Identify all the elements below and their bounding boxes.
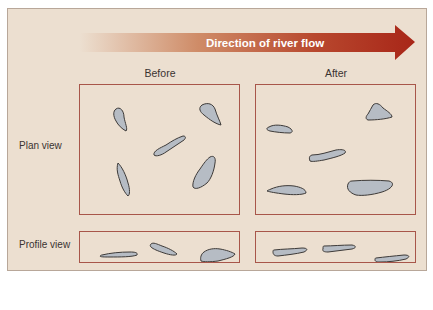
plan-after-clasts — [256, 85, 415, 214]
profile-view-before-box — [79, 231, 240, 263]
column-title-after: After — [256, 67, 416, 79]
plan-before-clasts — [80, 85, 239, 214]
profile-view-after-box — [255, 231, 416, 263]
arrow-label: Direction of river flow — [190, 34, 340, 52]
profile-before-clasts — [80, 232, 239, 262]
row-label-profile-view: Profile view — [19, 239, 70, 250]
plan-view-before-box — [79, 84, 240, 215]
column-title-before: Before — [80, 67, 240, 79]
profile-after-clasts — [256, 232, 415, 262]
cropped-caption-fragment — [0, 300, 433, 310]
plan-view-after-box — [255, 84, 416, 215]
row-label-plan-view: Plan view — [19, 140, 62, 151]
